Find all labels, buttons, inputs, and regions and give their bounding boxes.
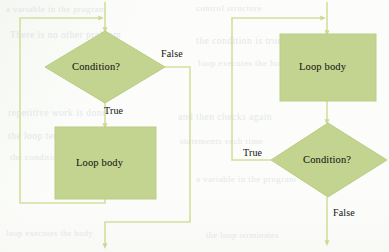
- left-condition-label: Condition?: [72, 61, 120, 72]
- right-true-edge-label: True: [243, 147, 262, 158]
- right-loop-body-label: Loop body: [299, 61, 346, 72]
- right-condition-label: Condition?: [303, 154, 351, 165]
- left-loop-body-label: Loop body: [76, 157, 123, 168]
- right-false-edge-label: False: [333, 207, 355, 218]
- flowchart-vector-layer: [0, 0, 389, 252]
- left-true-edge-label: True: [104, 105, 123, 116]
- figure-canvas: a variable in the program control struct…: [0, 0, 389, 252]
- left-false-edge-label: False: [161, 48, 183, 59]
